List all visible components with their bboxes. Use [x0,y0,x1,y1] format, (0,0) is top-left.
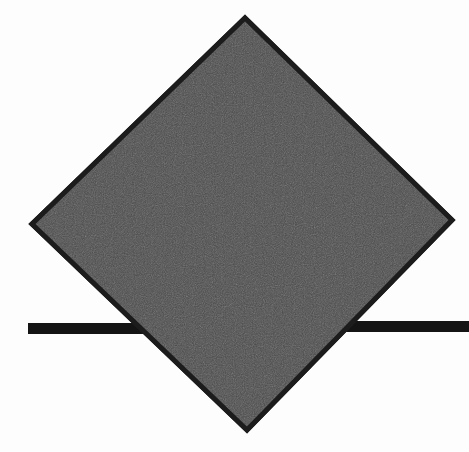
figure-canvas: Rotated square with horizontal line [0,0,469,452]
diagram-svg [0,0,469,452]
horizontal-bar-right-segment [345,321,469,332]
